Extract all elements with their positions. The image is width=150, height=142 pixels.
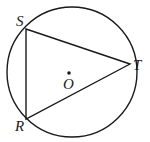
label-r: R (14, 118, 24, 134)
label-s: S (16, 13, 24, 29)
label-o: O (63, 76, 74, 92)
center-point-o (67, 71, 71, 75)
triangle-srt (26, 29, 130, 119)
label-t: T (133, 57, 143, 73)
circle-triangle-diagram: S T R O (0, 0, 150, 142)
